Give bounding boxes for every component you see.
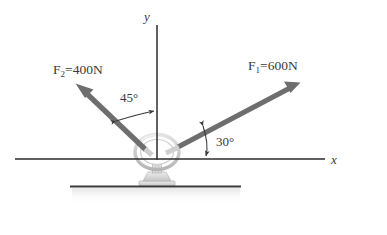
force-label-F2: F2=400N <box>53 62 103 79</box>
force-vector-F2 <box>76 84 153 156</box>
force-label-F1-value: =600N <box>260 58 298 73</box>
angle-arc-45-path <box>116 111 154 121</box>
angle-label-45: 45° <box>120 90 138 105</box>
statics-diagram: F2=400N F1=600N 45° 30° y x <box>0 0 387 235</box>
force-label-F1: F1=600N <box>248 58 298 75</box>
angle-arc-45 <box>116 111 154 121</box>
ground-reflection <box>72 188 240 204</box>
eyebolt-base-plate <box>139 181 175 186</box>
y-axis-label: y <box>142 9 150 24</box>
eyebolt-flange <box>143 172 171 181</box>
x-axis-label: x <box>330 152 337 167</box>
diagram-canvas: F2=400N F1=600N 45° 30° y x <box>0 0 387 235</box>
angle-label-30: 30° <box>216 134 234 149</box>
force-label-F2-value: =400N <box>65 62 103 77</box>
